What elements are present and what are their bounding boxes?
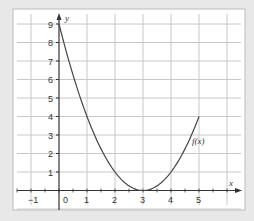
y-tick-label: 1 [48, 168, 53, 178]
x-tick-label: −1 [28, 195, 38, 205]
x-tick-label: 3 [140, 195, 145, 205]
y-tick-label: 3 [48, 131, 53, 141]
y-tick-label: 5 [48, 94, 53, 104]
x-tick-label: 0 [63, 195, 68, 205]
y-tick-label: 8 [48, 38, 53, 48]
y-tick-label: 9 [48, 20, 53, 30]
x-tick-label: 5 [196, 195, 201, 205]
y-tick-label: 4 [48, 112, 53, 122]
y-tick-label: 6 [48, 75, 53, 85]
x-tick-label: 1 [84, 195, 89, 205]
y-axis-label: y [64, 13, 69, 23]
curve-label: f(x) [192, 136, 205, 146]
x-axis-label: x [228, 178, 233, 188]
x-tick-label: 2 [112, 195, 117, 205]
y-tick-label: 7 [48, 57, 53, 67]
y-tick-label: 2 [48, 149, 53, 159]
x-tick-label: 4 [168, 195, 173, 205]
function-graph: −1012345123456789 f(x) x y [0, 0, 254, 221]
